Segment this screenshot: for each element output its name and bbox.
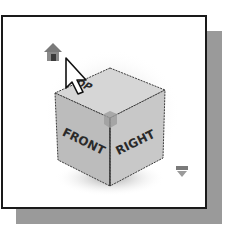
- viewcube-widget[interactable]: TOP FRONT RIGHT: [0, 0, 225, 226]
- home-icon[interactable]: [44, 43, 62, 61]
- chevron-down-icon[interactable]: [176, 166, 188, 177]
